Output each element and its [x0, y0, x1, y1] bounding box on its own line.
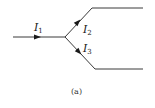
current-label-i2: I2 [83, 24, 92, 37]
current-subscript: 3 [87, 48, 91, 56]
current-label-i1: I1 [34, 22, 43, 35]
arrow-up-right-icon [74, 18, 82, 27]
current-label-i3: I3 [83, 43, 92, 56]
arrow-right-icon [34, 35, 41, 40]
lower-branch-wire [65, 37, 143, 69]
figure-caption: (a) [71, 88, 82, 96]
current-subscript: 1 [38, 27, 42, 35]
current-subscript: 2 [87, 29, 91, 37]
